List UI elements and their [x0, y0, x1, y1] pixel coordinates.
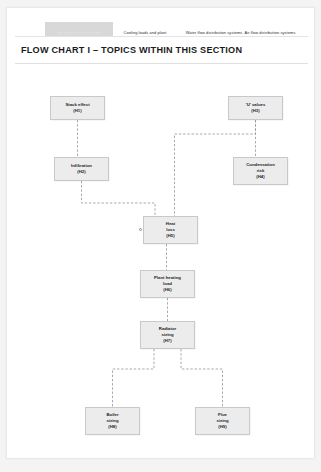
- edge-infiltration-to-heat-loss: [82, 181, 156, 216]
- flow-node-code: (H9): [218, 424, 226, 430]
- flow-node-code: (H5): [166, 233, 174, 239]
- flow-node-h7: Radiatorsizing(H7): [140, 321, 195, 349]
- flow-node-h9: Fluesizing(H9): [195, 407, 250, 435]
- flow-node-h8: Boilersizing(H8): [85, 407, 140, 435]
- flow-node-code: (H3): [251, 108, 259, 114]
- document-page: Heating loads and plant Cooling loads an…: [6, 7, 315, 459]
- flow-node-code: (H2): [77, 169, 85, 175]
- screenshot-root: Heating loads and plant Cooling loads an…: [0, 0, 321, 472]
- flow-node-code: (H7): [163, 338, 171, 344]
- flow-node-code: (H6): [163, 287, 171, 293]
- edge-radiator-sizing-to-flue-sizing: [181, 349, 223, 407]
- flow-node-h3: 'U' values(H3): [228, 96, 283, 120]
- flow-node-h2: Infiltration(H2): [54, 157, 109, 181]
- flow-node-h5: Heatloss(H5): [143, 216, 198, 244]
- flow-node-h4: Condensationrisk(H4): [233, 157, 288, 185]
- flow-node-h6: Plant heatingload(H6): [140, 270, 195, 298]
- flow-chart: Stack effect(H1)'U' values(H3)Infiltrati…: [7, 8, 316, 460]
- edge-radiator-sizing-to-boiler-sizing: [113, 349, 155, 407]
- flow-node-h1: Stack effect(H1): [50, 96, 105, 120]
- flow-node-code: (H4): [256, 174, 264, 180]
- flow-node-code: (H1): [73, 108, 81, 114]
- heat-loss-input-marker: [139, 228, 142, 231]
- flow-node-code: (H8): [108, 424, 116, 430]
